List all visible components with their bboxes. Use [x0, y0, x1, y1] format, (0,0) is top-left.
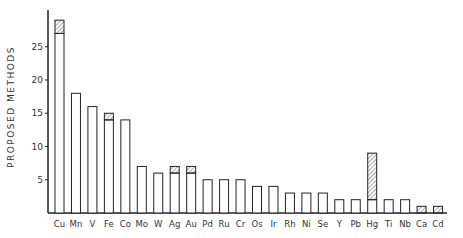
- x-tick-label: Os: [251, 219, 263, 229]
- bar-hg: [368, 153, 377, 213]
- bar-ir: [269, 186, 278, 213]
- bar-ru: [220, 180, 229, 213]
- bar-ti: [384, 200, 393, 213]
- bar-mo: [137, 166, 146, 213]
- bar-mn: [71, 93, 80, 213]
- x-tick-label: Mn: [70, 219, 83, 229]
- x-tick-label: Pb: [350, 219, 361, 229]
- x-tick-label: W: [154, 219, 163, 229]
- bar-w: [154, 173, 163, 213]
- x-tick-label: Ca: [416, 219, 427, 229]
- bar-rh: [285, 193, 294, 213]
- x-tick-label: Ag: [169, 219, 180, 229]
- bar-ag: [170, 166, 179, 213]
- y-tick-label: 15: [32, 108, 43, 118]
- bar-nb: [401, 200, 410, 213]
- x-tick-label: Hg: [366, 219, 378, 229]
- bar-ni: [302, 193, 311, 213]
- x-tick-label: Ni: [302, 219, 311, 229]
- bar-y: [335, 200, 344, 213]
- x-tick-label: Au: [186, 219, 197, 229]
- y-tick-label: 25: [32, 42, 43, 52]
- x-tick-label: Cd: [432, 219, 443, 229]
- y-tick-label: 5: [37, 175, 43, 185]
- x-tick-label: Ir: [270, 219, 277, 229]
- x-tick-label: Fe: [104, 219, 114, 229]
- bar-cd: [434, 206, 443, 213]
- x-tick-labels: CuMnVFeCoMoWAgAuPdRuCrOsIrRhNiSeYPbHgTiN…: [54, 219, 444, 229]
- x-tick-label: Y: [336, 219, 343, 229]
- x-tick-label: Cu: [54, 219, 65, 229]
- x-tick-label: Rh: [284, 219, 295, 229]
- bar-v: [88, 107, 97, 213]
- bar-co: [121, 120, 130, 213]
- bar-cu: [55, 20, 64, 213]
- bar-pd: [203, 180, 212, 213]
- x-tick-label: Se: [318, 219, 329, 229]
- bar-fe: [104, 113, 113, 213]
- bar-au: [187, 166, 196, 213]
- x-tick-label: Ru: [219, 219, 230, 229]
- bar-os: [253, 186, 262, 213]
- bar-chart: 510152025 CuMnVFeCoMoWAgAuPdRuCrOsIrRhNi…: [0, 0, 463, 238]
- x-tick-label: Pd: [202, 219, 213, 229]
- x-tick-label: V: [90, 219, 96, 229]
- bars: [55, 20, 443, 213]
- x-tick-label: Mo: [136, 219, 149, 229]
- x-tick-label: Ti: [384, 219, 392, 229]
- bar-pb: [351, 200, 360, 213]
- y-tick-label: 10: [32, 142, 44, 152]
- bar-se: [318, 193, 327, 213]
- bar-cr: [236, 180, 245, 213]
- x-tick-label: Co: [120, 219, 131, 229]
- y-tick-label: 20: [32, 75, 44, 85]
- x-tick-label: Nb: [399, 219, 411, 229]
- x-tick-label: Cr: [236, 219, 246, 229]
- bar-ca: [417, 206, 426, 213]
